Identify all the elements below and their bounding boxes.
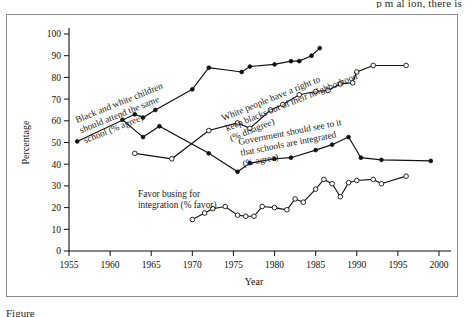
data-point-0-7 <box>248 65 252 69</box>
series-annotation-3: Favor busing forintegration (% favor) <box>138 189 216 211</box>
data-point-3-10 <box>293 197 298 202</box>
data-point-0-8 <box>273 62 277 66</box>
data-point-3-7 <box>260 204 265 209</box>
data-point-0-6 <box>240 70 244 74</box>
data-point-1-1 <box>169 156 174 161</box>
data-point-1-2 <box>206 128 211 133</box>
data-point-3-20 <box>404 174 409 179</box>
data-point-2-10 <box>347 135 351 139</box>
page-top-cutoff-text: p m al ion, there is <box>376 0 462 8</box>
y-tick-label: 70 <box>52 95 62 105</box>
data-point-0-11 <box>310 54 314 58</box>
data-point-2-7 <box>289 156 293 160</box>
data-point-2-3 <box>207 151 211 155</box>
x-tick-label: 1970 <box>183 260 202 270</box>
y-tick-label: 80 <box>52 73 62 83</box>
data-point-0-0 <box>75 140 79 144</box>
data-point-3-1 <box>202 211 207 216</box>
data-point-3-5 <box>243 214 248 219</box>
x-tick-label: 1965 <box>142 260 161 270</box>
line-chart: 0102030405060708090100195519601965197019… <box>7 15 459 298</box>
data-point-3-0 <box>190 217 195 222</box>
y-axis-title: Percentage <box>20 120 31 164</box>
data-point-3-13 <box>322 177 327 182</box>
data-point-1-14 <box>404 63 409 68</box>
x-tick-label: 1990 <box>347 260 366 270</box>
data-point-2-8 <box>314 148 318 152</box>
y-tick-label: 30 <box>52 181 62 191</box>
data-point-3-17 <box>354 178 359 183</box>
data-point-2-9 <box>330 143 334 147</box>
x-tick-label: 1985 <box>306 260 325 270</box>
data-point-3-12 <box>313 187 318 192</box>
data-point-3-15 <box>338 194 343 199</box>
y-tick-label: 50 <box>52 138 62 148</box>
y-tick-label: 60 <box>52 116 62 126</box>
y-tick-label: 20 <box>52 203 62 213</box>
y-tick-label: 90 <box>52 51 62 61</box>
y-tick-label: 0 <box>56 246 61 256</box>
data-point-0-3 <box>153 108 157 112</box>
x-tick-label: 1960 <box>101 260 120 270</box>
x-tick-label: 2000 <box>430 260 449 270</box>
series-annotation-3-line-0: Favor busing for <box>138 189 201 199</box>
data-point-1-13 <box>371 63 376 68</box>
data-point-2-11 <box>359 156 363 160</box>
x-tick-label: 1975 <box>224 260 243 270</box>
data-point-3-6 <box>252 214 257 219</box>
data-point-3-4 <box>235 213 240 218</box>
data-point-2-1 <box>141 135 145 139</box>
data-point-3-18 <box>371 177 376 182</box>
y-tick-label: 100 <box>47 29 62 39</box>
series-annotation-3-line-1: integration (% favor) <box>138 200 216 211</box>
data-point-0-5 <box>207 66 211 70</box>
data-point-2-2 <box>158 124 162 128</box>
data-point-1-0 <box>132 151 137 156</box>
data-point-3-19 <box>379 181 384 186</box>
figure-frame: 0102030405060708090100195519601965197019… <box>6 14 458 297</box>
data-point-0-4 <box>190 87 194 91</box>
data-point-3-16 <box>346 180 351 185</box>
data-point-0-9 <box>289 59 293 63</box>
data-point-2-4 <box>236 170 240 174</box>
data-point-3-11 <box>301 200 306 205</box>
page-bottom-cutoff-text: Figure <box>6 307 35 317</box>
x-axis-title: Year <box>245 276 264 287</box>
data-point-2-12 <box>380 158 384 162</box>
data-point-2-13 <box>429 159 433 163</box>
y-tick-label: 40 <box>52 160 62 170</box>
series-line-3 <box>192 176 406 219</box>
series-annotation-0: Black and white childrenshould attend th… <box>74 81 173 147</box>
y-tick-label: 10 <box>52 225 62 235</box>
x-tick-label: 1955 <box>60 260 79 270</box>
data-point-3-8 <box>272 205 277 210</box>
x-tick-label: 1980 <box>265 260 284 270</box>
data-point-3-14 <box>330 181 335 186</box>
data-point-0-12 <box>318 46 322 50</box>
x-tick-label: 1995 <box>388 260 407 270</box>
data-point-0-10 <box>297 59 301 63</box>
data-point-3-3 <box>223 204 228 209</box>
data-point-3-9 <box>285 207 290 212</box>
